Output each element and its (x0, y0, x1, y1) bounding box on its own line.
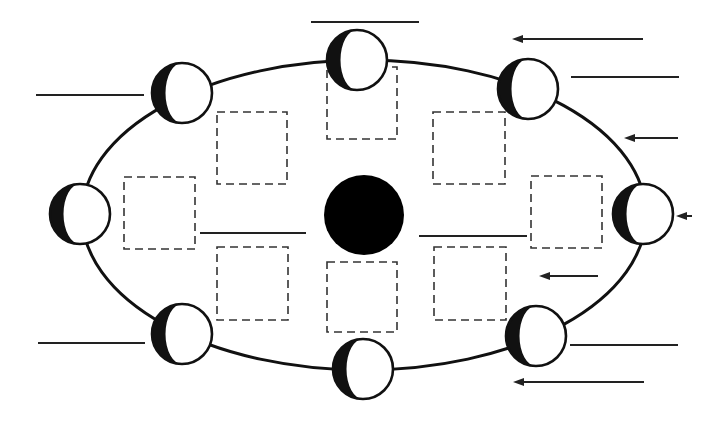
box-bottom-dashed-label-box[interactable] (327, 262, 397, 332)
moon-right-moon-icon (613, 184, 673, 244)
box-right-dashed-label-box[interactable] (531, 176, 602, 248)
sunlight-arrow-icon (539, 272, 598, 280)
box-top-right-dashed-label-box[interactable] (433, 112, 505, 184)
sunlight-arrow-icon (676, 212, 692, 220)
box-top-left-dashed-label-box[interactable] (217, 112, 287, 184)
moon-bottom-moon-icon (333, 339, 393, 399)
sunlight-arrow-icon (624, 134, 678, 142)
moon-bottom-right-moon-icon (506, 306, 566, 366)
moon-left-moon-icon (50, 184, 110, 244)
moon-top-left-moon-icon (152, 63, 212, 123)
sunlight-arrow-icon (512, 35, 643, 43)
moon-bottom-left-moon-icon (152, 304, 212, 364)
box-bottom-left-dashed-label-box[interactable] (217, 247, 288, 320)
earth-icon (324, 175, 404, 255)
sunlight-arrow-icon (513, 378, 644, 386)
box-left-dashed-label-box[interactable] (124, 177, 195, 249)
box-bottom-right-dashed-label-box[interactable] (434, 247, 506, 320)
moon-top-right-moon-icon (498, 59, 558, 119)
earth (324, 175, 404, 255)
diagram-canvas (0, 0, 713, 431)
moon-phases-diagram (0, 0, 713, 431)
moon-top-moon-icon (327, 30, 387, 90)
